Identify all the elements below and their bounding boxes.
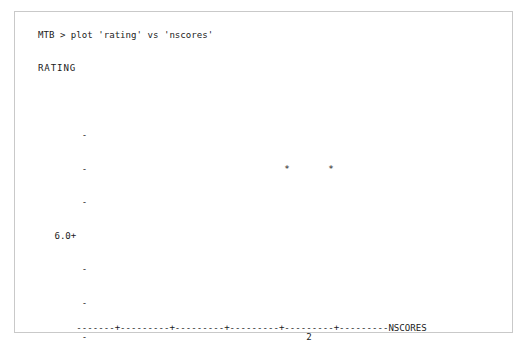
minitab-command-line: MTB > plot 'rating' vs 'nscores' (38, 30, 213, 40)
plot-row (38, 96, 394, 107)
x-axis-tick-row: -------+---------+---------+---------+--… (38, 323, 427, 334)
x-axis: -------+---------+---------+---------+--… (38, 301, 427, 349)
plot-row: - * * (38, 164, 394, 175)
plot-row: - (38, 264, 394, 275)
plot-window-frame: MTB > plot 'rating' vs 'nscores' RATING … (14, 11, 513, 333)
plot-row: 6.0+ (38, 231, 394, 242)
plot-row: - (38, 130, 394, 141)
y-axis-title: RATING (38, 63, 76, 73)
plot-row: - (38, 197, 394, 208)
